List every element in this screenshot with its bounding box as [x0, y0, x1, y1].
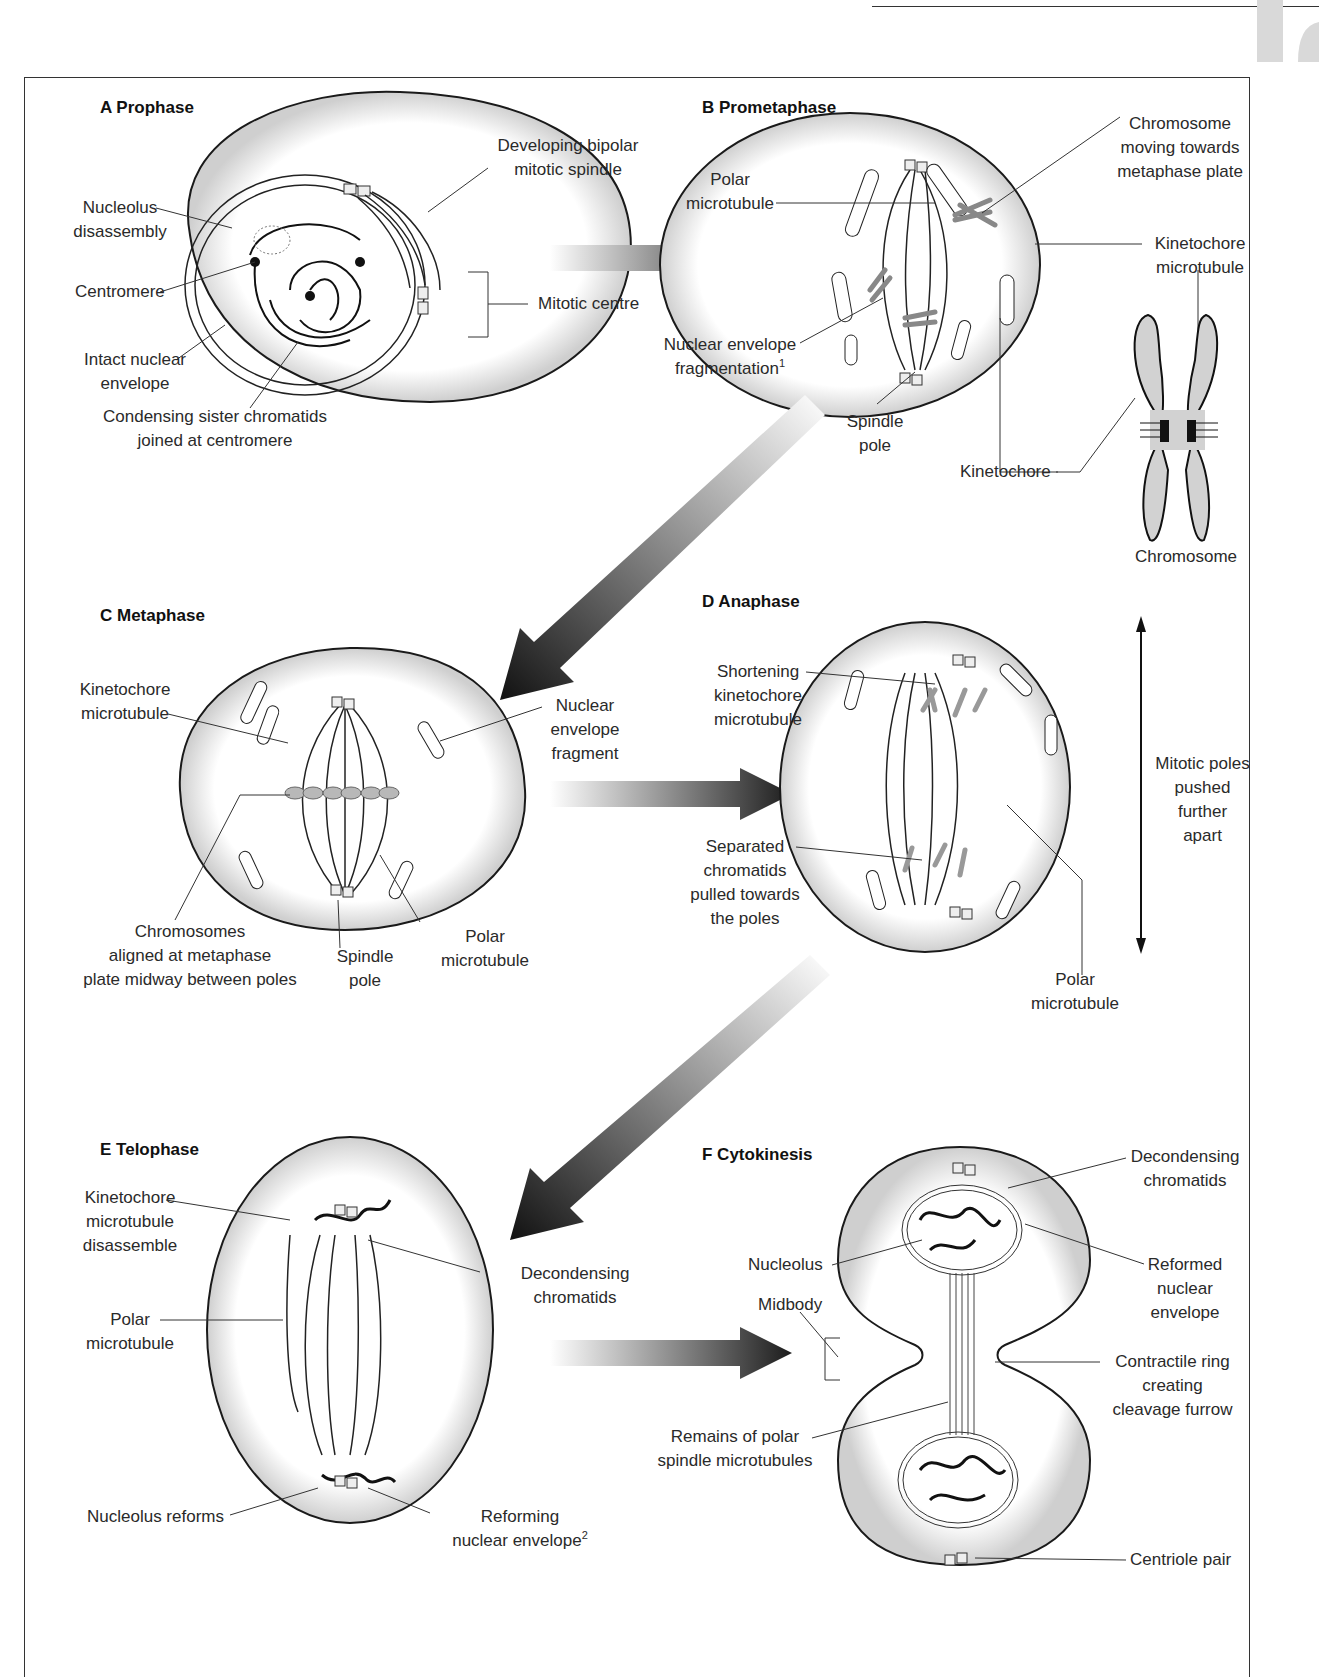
panel-f-title: F Cytokinesis: [702, 1145, 813, 1165]
label-line: pole: [840, 434, 910, 458]
label-line: pulled towards: [685, 883, 805, 907]
label-line: cleavage furrow: [1105, 1398, 1240, 1422]
label-line: microtubule: [80, 1332, 180, 1356]
label-nucleolus-reforms: Nucleolus reforms: [87, 1505, 224, 1529]
telophase-cell: [207, 1137, 493, 1523]
label-line: Polar: [1020, 968, 1130, 992]
label-line: chromatids: [510, 1286, 640, 1310]
label-chromosome-moving: Chromosome moving towards metaphase plat…: [1115, 112, 1245, 184]
label-decondensing-e: Decondensing chromatids: [510, 1262, 640, 1310]
label-polar-microtubule-e: Polar microtubule: [80, 1308, 180, 1356]
label-reforming-envelope: Reforming nuclear envelope2: [440, 1505, 600, 1553]
label-line: Polar: [680, 168, 780, 192]
label-condensing-chromatids: Condensing sister chromatids joined at c…: [95, 405, 335, 453]
label-line: Polar: [430, 925, 540, 949]
panel-c-title: C Metaphase: [100, 606, 205, 626]
label-line: microtubule: [1145, 256, 1255, 280]
label-line: Decondensing: [1125, 1145, 1245, 1169]
label-line: Contractile ring: [1105, 1350, 1240, 1374]
label-line: disassemble: [75, 1234, 185, 1258]
label-line: Developing bipolar: [488, 134, 648, 158]
label-line: spindle microtubules: [655, 1449, 815, 1473]
label-line: Kinetochore: [70, 678, 180, 702]
label-line: apart: [1140, 824, 1265, 848]
label-line: microtubule: [75, 1210, 185, 1234]
label-line: fragmentation1: [655, 357, 805, 381]
label-kinetochore-disassemble: Kinetochore microtubule disassemble: [75, 1186, 185, 1258]
label-line: Spindle: [330, 945, 400, 969]
label-line: envelope: [80, 372, 190, 396]
label-line: aligned at metaphase: [70, 944, 310, 968]
label-line: Separated: [685, 835, 805, 859]
label-line: metaphase plate: [1115, 160, 1245, 184]
label-line: Nuclear: [545, 694, 625, 718]
metaphase-cell: [180, 648, 525, 930]
label-developing-spindle: Developing bipolar mitotic spindle: [488, 134, 648, 182]
label-line: Condensing sister chromatids: [95, 405, 335, 429]
label-line: nuclear: [1140, 1277, 1230, 1301]
panel-a-title: A Prophase: [100, 98, 194, 118]
label-line: pushed: [1140, 776, 1265, 800]
label-line: fragment: [545, 742, 625, 766]
label-line: further: [1140, 800, 1265, 824]
anaphase-cell: [780, 622, 1070, 952]
label-text: fragmentation: [675, 359, 779, 378]
label-line: pole: [330, 969, 400, 993]
panel-e-title: E Telophase: [100, 1140, 199, 1160]
label-chromosome: Chromosome: [1135, 545, 1237, 569]
chromosome-inset: [1135, 315, 1218, 541]
label-line: Decondensing: [510, 1262, 640, 1286]
label-envelope-fragmentation: Nuclear envelope fragmentation1: [655, 333, 805, 381]
label-midbody: Midbody: [758, 1293, 822, 1317]
label-line: plate midway between poles: [70, 968, 310, 992]
label-reformed-envelope: Reformed nuclear envelope: [1140, 1253, 1230, 1325]
arrow-d-to-e: [510, 955, 830, 1240]
label-line: microtubule: [430, 949, 540, 973]
label-text: nuclear envelope: [452, 1531, 581, 1550]
label-line: disassembly: [70, 220, 170, 244]
label-nucleolus-f: Nucleolus: [748, 1253, 823, 1277]
label-kinetochore-microtubule-b: Kinetochore microtubule: [1145, 232, 1255, 280]
label-line: envelope: [1140, 1301, 1230, 1325]
label-chromosomes-aligned: Chromosomes aligned at metaphase plate m…: [70, 920, 310, 992]
label-centromere: Centromere: [75, 280, 165, 304]
label-line: creating: [1105, 1374, 1240, 1398]
label-polar-microtubule-d: Polar microtubule: [1020, 968, 1130, 1016]
label-line: Kinetochore: [75, 1186, 185, 1210]
label-line: Polar: [80, 1308, 180, 1332]
label-line: the poles: [685, 907, 805, 931]
label-decondensing-f: Decondensing chromatids: [1125, 1145, 1245, 1193]
label-nucleolus-disassembly: Nucleolus disassembly: [70, 196, 170, 244]
label-remains-polar: Remains of polar spindle microtubules: [655, 1425, 815, 1473]
label-polar-microtubule-b: Polar microtubule: [680, 168, 780, 216]
label-line: nuclear envelope2: [440, 1529, 600, 1553]
label-line: chromatids: [685, 859, 805, 883]
cytokinesis-cell: [838, 1147, 1090, 1565]
label-line: Mitotic poles: [1140, 752, 1265, 776]
label-envelope-fragment: Nuclear envelope fragment: [545, 694, 625, 766]
label-polar-microtubule-c: Polar microtubule: [430, 925, 540, 973]
label-separated-chromatids: Separated chromatids pulled towards the …: [685, 835, 805, 931]
label-line: Chromosome: [1115, 112, 1245, 136]
label-line: Chromosomes: [70, 920, 310, 944]
label-line: mitotic spindle: [488, 158, 648, 182]
arrow-b-to-c: [500, 395, 825, 700]
label-line: kinetochore: [708, 684, 808, 708]
label-line: joined at centromere: [95, 429, 335, 453]
label-line: Nuclear envelope: [655, 333, 805, 357]
label-line: Spindle: [840, 410, 910, 434]
label-line: microtubule: [70, 702, 180, 726]
label-line: microtubule: [708, 708, 808, 732]
label-line: Kinetochore: [1145, 232, 1255, 256]
label-line: Shortening: [708, 660, 808, 684]
label-shortening-kinetochore: Shortening kinetochore microtubule: [708, 660, 808, 732]
label-line: microtubule: [680, 192, 780, 216]
label-line: Intact nuclear: [80, 348, 190, 372]
label-line: microtubule: [1020, 992, 1130, 1016]
label-mitotic-centre: Mitotic centre: [538, 292, 639, 316]
label-poles-pushed-apart: Mitotic poles pushed further apart: [1140, 752, 1265, 848]
label-line: chromatids: [1125, 1169, 1245, 1193]
label-contractile-ring: Contractile ring creating cleavage furro…: [1105, 1350, 1240, 1422]
